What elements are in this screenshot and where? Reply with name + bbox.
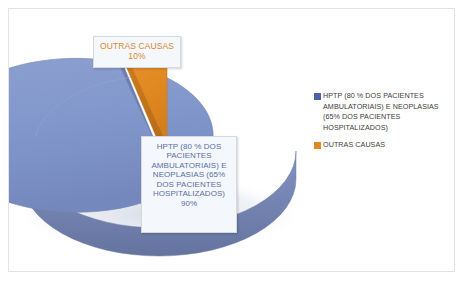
data-label-outras-name: OUTRAS CAUSAS <box>94 41 180 51</box>
data-label-hptp-line-5: DOS PACIENTES <box>145 180 233 189</box>
chart-frame: OUTRAS CAUSAS 10% HPTP (80 % DOS PACIENT… <box>8 8 455 272</box>
data-label-outras-value: 10% <box>94 51 180 61</box>
data-label-hptp-line-4: NEOPLASIAS (65% <box>145 170 233 179</box>
data-label-outras-causas[interactable]: OUTRAS CAUSAS 10% <box>93 36 181 68</box>
data-label-hptp-line-1: HPTP (80 % DOS <box>145 142 233 151</box>
legend-hptp-line-2: AMBULATORIAIS) E NEOPLASIAS <box>323 102 439 111</box>
data-label-hptp[interactable]: HPTP (80 % DOS PACIENTES AMBULATORIAIS) … <box>141 136 237 233</box>
data-label-hptp-line-3: AMBULATORIAIS) E <box>145 161 233 170</box>
legend-label-hptp: HPTP (80 % DOS PACIENTES AMBULATORIAIS) … <box>323 91 439 133</box>
legend-item-outras-causas[interactable]: OUTRAS CAUSAS <box>314 140 454 151</box>
legend-hptp-line-3: (65% DOS PACIENTES <box>323 112 400 121</box>
legend-swatch-icon-blue <box>314 93 321 100</box>
legend-swatch-icon-orange <box>314 142 321 149</box>
data-label-hptp-line-6: HOSPITALIZADOS) <box>145 189 233 198</box>
legend-hptp-line-1: HPTP (80 % DOS PACIENTES <box>323 91 424 100</box>
data-label-hptp-line-2: PACIENTES <box>145 151 233 160</box>
legend-label-outras-causas: OUTRAS CAUSAS <box>323 140 385 151</box>
chart-legend: HPTP (80 % DOS PACIENTES AMBULATORIAIS) … <box>314 91 454 158</box>
legend-hptp-line-4: HOSPITALIZADOS) <box>323 123 388 132</box>
legend-outras-line-1: OUTRAS CAUSAS <box>323 140 385 149</box>
legend-item-hptp[interactable]: HPTP (80 % DOS PACIENTES AMBULATORIAIS) … <box>314 91 454 133</box>
data-label-hptp-value: 90% <box>145 199 233 208</box>
